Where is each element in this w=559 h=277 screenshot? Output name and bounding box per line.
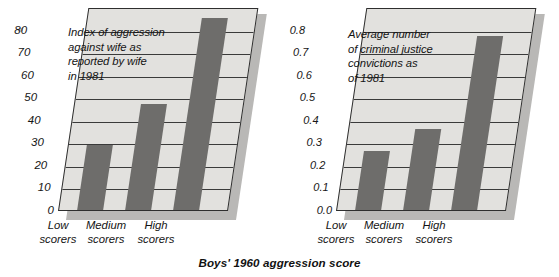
y-axis-tick: 0.7 [293, 47, 308, 59]
y-axis-tick: 0.5 [300, 92, 315, 104]
y-axis-tick: 60 [21, 70, 34, 82]
x-axis-category-label: High scorers [406, 218, 462, 246]
y-axis-tick: 0.4 [303, 115, 318, 127]
y-axis-tick: 0.6 [296, 70, 311, 82]
chart-aggression-index: 01020304050607080 Index of aggression ag… [0, 0, 276, 250]
y-axis-tick: 20 [34, 160, 47, 172]
y-axis-tick: 0.2 [310, 160, 325, 172]
figure-caption: Boys' 1960 aggression score [0, 256, 559, 269]
bar [355, 151, 390, 210]
bar [403, 129, 441, 210]
x-axis-labels-left: Low scorersMedium scorersHigh scorers [0, 218, 276, 254]
bar [77, 145, 113, 210]
x-axis-category-label: Medium scorers [356, 218, 412, 246]
y-axis-labels-left: 01020304050607080 [0, 0, 58, 215]
figure-boys-aggression: 01020304050607080 Index of aggression ag… [0, 0, 559, 277]
x-axis-labels-right: Low scorersMedium scorersHigh scorers [272, 218, 552, 254]
y-axis-labels-right: 0.00.10.20.30.40.50.60.70.8 [272, 0, 336, 215]
y-axis-tick: 10 [38, 182, 51, 194]
y-axis-tick: 40 [28, 115, 41, 127]
x-axis-category-label: High scorers [128, 218, 184, 246]
y-axis-tick: 0.3 [307, 137, 322, 149]
y-axis-tick: 70 [18, 47, 31, 59]
x-axis-category-label: Medium scorers [78, 218, 134, 246]
y-axis-tick: 0 [48, 205, 54, 217]
annotation-left: Index of aggression against wife as repo… [68, 25, 208, 83]
y-axis-tick: 0.1 [313, 182, 328, 194]
y-axis-tick: 80 [14, 25, 27, 37]
y-axis-tick: 0.0 [317, 205, 332, 217]
y-axis-tick: 30 [31, 137, 44, 149]
y-axis-tick: 50 [24, 92, 37, 104]
annotation-right: Average number of criminal justice convi… [348, 27, 498, 85]
bar [125, 104, 167, 210]
y-axis-tick: 0.8 [290, 25, 305, 37]
